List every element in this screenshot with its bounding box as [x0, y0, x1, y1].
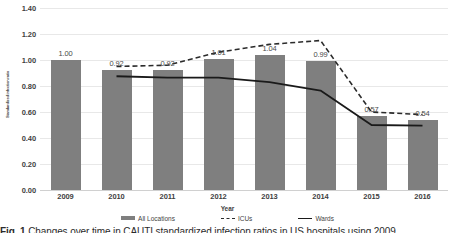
- x-tick-label: 2012: [210, 192, 226, 201]
- x-axis-label: Year: [0, 205, 455, 212]
- plot-area: 1.000.920.921.011.040.990.570.54: [40, 8, 448, 190]
- bar-value-label: 0.57: [364, 105, 378, 114]
- line-wards: [117, 76, 423, 125]
- legend-label: All Locations: [138, 215, 175, 222]
- x-tick-label: 2011: [160, 192, 176, 201]
- bar-value-label: 0.54: [415, 109, 429, 118]
- legend-swatch-icon: [221, 218, 235, 219]
- y-tick-label: 0.20: [2, 160, 36, 169]
- legend-item: Wards: [298, 215, 334, 222]
- caption-text: Changes over time in CAUTI standardized …: [26, 226, 396, 233]
- legend-swatch-icon: [121, 216, 135, 220]
- gridline: [40, 190, 448, 191]
- x-tick-label: 2014: [312, 192, 328, 201]
- legend-swatch-icon: [298, 218, 312, 219]
- x-tick-label: 2015: [363, 192, 379, 201]
- bar-value-label: 0.92: [160, 59, 174, 68]
- bar-value-label: 0.92: [109, 59, 123, 68]
- bar-value-label: 1.00: [58, 49, 72, 58]
- line-series-overlay: [40, 8, 448, 190]
- x-tick-label: 2010: [108, 192, 124, 201]
- legend-label: ICUs: [238, 215, 252, 222]
- x-tick-label: 2013: [261, 192, 277, 201]
- bar-value-label: 1.04: [262, 44, 276, 53]
- chart-legend: All LocationsICUsWards: [0, 212, 455, 224]
- y-tick-label: 1.40: [2, 4, 36, 13]
- bar-value-label: 0.99: [313, 50, 327, 59]
- x-tick-label: 2016: [414, 192, 430, 201]
- bar-value-label: 1.01: [211, 48, 225, 57]
- legend-item: ICUs: [221, 215, 252, 222]
- legend-label: Wards: [315, 215, 334, 222]
- figure-container: 0.000.200.400.600.801.001.201.40 Standar…: [0, 0, 455, 233]
- legend-item: All Locations: [121, 215, 175, 222]
- x-tick-label: 2009: [57, 192, 73, 201]
- caption-prefix: Fig. 1: [0, 226, 26, 233]
- y-tick-label: 0.00: [2, 186, 36, 195]
- figure-caption: Fig. 1 Changes over time in CAUTI standa…: [0, 226, 455, 233]
- y-axis-label: Standardized infection ratio: [5, 35, 10, 155]
- x-axis-ticks: 20092010201120122013201420152016: [40, 192, 448, 204]
